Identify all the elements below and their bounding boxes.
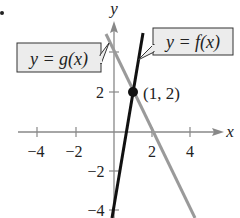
g-callout-label: y = g(x) xyxy=(28,49,88,70)
y-tick-label: −4 xyxy=(87,202,104,218)
point-label: (1, 2) xyxy=(143,84,180,103)
y-axis: y 2 −2 −4 xyxy=(87,0,119,218)
bullet-dot xyxy=(0,11,4,15)
f-line xyxy=(112,33,143,218)
x-tick-label: −4 xyxy=(27,143,44,160)
g-callout: y = g(x) xyxy=(17,43,109,72)
f-callout-label: y = f(x) xyxy=(164,32,220,53)
y-axis-label: y xyxy=(108,0,118,18)
y-tick-label: 2 xyxy=(96,84,104,101)
y-tick-label: −2 xyxy=(87,163,104,180)
x-tick-label: 4 xyxy=(186,143,194,160)
f-callout: y = f(x) xyxy=(138,28,233,60)
function-graph: x −4 −2 2 4 y 2 −2 −4 (1, 2) y = g(x) y … xyxy=(0,0,240,218)
x-tick-label: −2 xyxy=(65,143,82,160)
intersection-point xyxy=(128,87,138,97)
g-line xyxy=(106,34,195,218)
x-tick-label: 2 xyxy=(148,143,156,160)
x-axis-label: x xyxy=(225,122,234,141)
